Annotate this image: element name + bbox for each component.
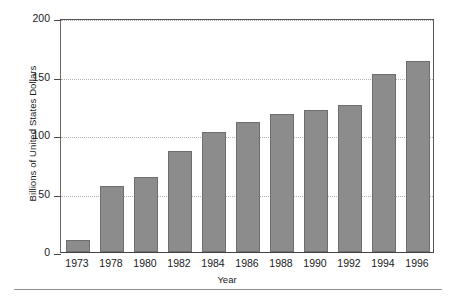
y-axis-tick	[54, 20, 61, 21]
bar	[304, 110, 328, 252]
bar	[270, 114, 294, 252]
y-axis-tick-label: 150	[8, 72, 50, 83]
bar	[100, 186, 124, 252]
plot-area	[60, 19, 434, 253]
bar	[372, 74, 396, 252]
bar	[202, 132, 226, 253]
x-axis-tick-label: 1996	[395, 257, 439, 269]
y-axis-tick-label: 100	[8, 130, 50, 141]
y-axis-tick	[54, 79, 61, 80]
bottom-divider	[14, 289, 442, 290]
bar	[134, 177, 158, 252]
bar	[236, 122, 260, 252]
y-axis-tick	[54, 254, 61, 255]
gridline	[61, 20, 433, 21]
bar-chart-figure: Billions of United States Dollars Year 0…	[0, 0, 454, 298]
y-axis-tick-label: 200	[8, 13, 50, 24]
y-axis-tick-label: 0	[8, 247, 50, 258]
bar	[66, 240, 90, 252]
bar	[406, 61, 430, 252]
y-axis-tick-label: 50	[8, 189, 50, 200]
y-axis-tick	[54, 196, 61, 197]
bar	[168, 151, 192, 252]
x-axis-title: Year	[0, 274, 454, 285]
y-axis-tick	[54, 137, 61, 138]
bar	[338, 105, 362, 252]
